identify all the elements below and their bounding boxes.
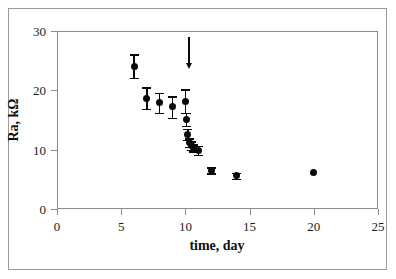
x-tick-mark xyxy=(185,209,186,215)
data-point xyxy=(310,169,317,176)
y-tick-label: 30 xyxy=(33,25,46,38)
error-bar-cap xyxy=(130,78,139,79)
y-tick-mark xyxy=(51,90,57,91)
y-tick-label: 20 xyxy=(33,84,46,97)
error-bar-cap xyxy=(168,118,177,119)
x-tick-mark xyxy=(314,209,315,215)
x-tick-label: 5 xyxy=(118,220,125,233)
x-tick-mark xyxy=(121,209,122,215)
data-point xyxy=(143,95,150,102)
error-bar-cap xyxy=(155,93,164,94)
x-axis-label: time, day xyxy=(189,238,244,254)
error-bar-cap xyxy=(168,96,177,97)
data-point xyxy=(195,147,202,154)
annotation-arrow-head xyxy=(186,63,192,69)
x-tick-mark xyxy=(378,209,379,215)
error-bar-cap xyxy=(194,155,203,156)
data-point xyxy=(182,98,189,105)
error-bar-cap xyxy=(130,54,139,55)
error-bar-cap xyxy=(182,113,191,114)
x-tick-label: 25 xyxy=(372,220,385,233)
error-bar-cap xyxy=(142,87,151,88)
error-bar-cap xyxy=(142,109,151,110)
plot-area xyxy=(57,31,378,209)
error-bar-cap xyxy=(155,113,164,114)
error-bar-cap xyxy=(181,89,190,90)
y-tick-mark xyxy=(51,31,57,32)
data-point xyxy=(208,167,215,174)
x-tick-label: 0 xyxy=(54,220,61,233)
y-tick-label: 10 xyxy=(33,143,46,156)
data-point xyxy=(131,63,138,70)
x-tick-label: 20 xyxy=(307,220,320,233)
y-tick-mark xyxy=(51,150,57,151)
x-tick-mark xyxy=(250,209,251,215)
x-tick-label: 10 xyxy=(179,220,192,233)
error-bar-cap xyxy=(182,126,191,127)
x-tick-mark xyxy=(57,209,58,215)
x-tick-label: 15 xyxy=(243,220,256,233)
y-tick-label: 0 xyxy=(40,203,47,216)
y-axis-label: Ra, kΩ xyxy=(6,98,22,141)
chart-figure: Ra, kΩ time, day 0102030 0510152025 xyxy=(0,0,396,279)
annotation-arrow-shaft xyxy=(188,37,190,64)
